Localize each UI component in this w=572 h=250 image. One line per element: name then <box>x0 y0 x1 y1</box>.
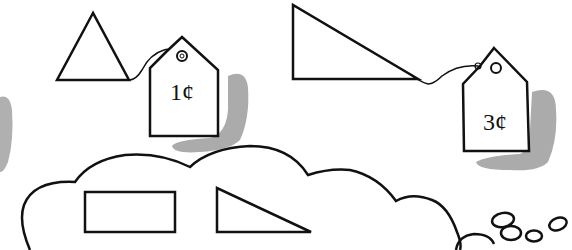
right-triangle <box>293 5 418 79</box>
thought-bubble-2 <box>501 226 521 240</box>
illustration: 1¢ 3¢ <box>0 0 572 250</box>
cloud-rectangle <box>85 192 175 232</box>
thought-bubble-3 <box>526 231 542 242</box>
price-label-1: 1¢ <box>170 79 194 105</box>
price-tag-3: 3¢ <box>463 48 529 151</box>
price-label-3: 3¢ <box>483 109 507 135</box>
thought-bubble-4 <box>547 215 568 232</box>
shadow-left-edge <box>0 97 13 172</box>
equilateral-triangle <box>57 13 129 80</box>
